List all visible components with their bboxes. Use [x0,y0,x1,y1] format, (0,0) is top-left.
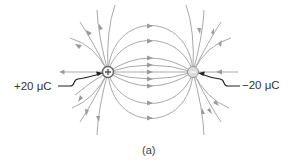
positive-charge-label: +20 μC [14,80,52,92]
positive-charge [103,67,114,78]
figure-caption: (a) [142,144,155,156]
negative-label-pointer [198,72,240,87]
negative-charge-label: −20 μC [242,79,280,91]
connecting-field-lines [108,24,193,121]
negative-charge [188,67,199,78]
